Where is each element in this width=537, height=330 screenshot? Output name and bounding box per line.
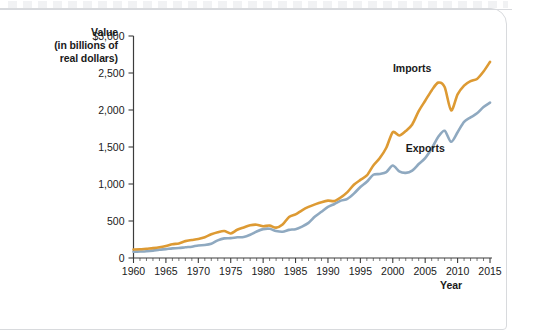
x-tick-label: 1990 — [316, 265, 340, 277]
y-tick-label: 2,000 — [98, 104, 124, 116]
x-tick-label: 1985 — [284, 265, 308, 277]
y-tick-label: 500 — [107, 215, 125, 227]
y-tick-label: 2,500 — [98, 67, 124, 79]
x-tick-label: 2000 — [381, 265, 405, 277]
x-tick-label: 1970 — [187, 265, 211, 277]
series-line-exports — [134, 103, 491, 252]
y-tick-label: 0 — [119, 252, 125, 264]
x-tick-label: 1980 — [251, 265, 275, 277]
y-tick-label: $3,000 — [92, 30, 124, 42]
y-tick-label: 1,500 — [98, 141, 124, 153]
x-tick-label: 1995 — [349, 265, 373, 277]
x-axis-tick-labels: 1960196519701975198019851990199520002005… — [122, 265, 502, 277]
x-tick-label: 2015 — [478, 265, 502, 277]
x-tick-label: 2010 — [446, 265, 470, 277]
x-tick-label: 2005 — [414, 265, 438, 277]
x-tick-label: 1975 — [219, 265, 243, 277]
series-label-exports: Exports — [406, 142, 445, 154]
x-tick-label: 1960 — [122, 265, 146, 277]
data-series-group — [134, 62, 491, 252]
x-tick-label: 1965 — [154, 265, 178, 277]
y-axis-tick-labels: 05001,0001,5002,0002,500$3,000 — [92, 30, 124, 264]
series-label-imports: Imports — [393, 62, 432, 74]
y-tick-label: 1,000 — [98, 178, 124, 190]
